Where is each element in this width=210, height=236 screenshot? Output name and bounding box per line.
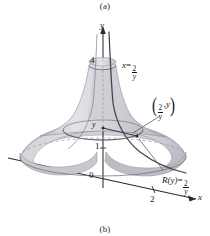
x-axis-label: x — [198, 193, 202, 202]
tick-label-4: 4 — [90, 55, 95, 65]
caption-bottom: (b) — [0, 224, 210, 234]
point-close-paren: ) — [170, 96, 175, 113]
point-fraction: 2y — [158, 104, 164, 120]
curve-equation-numerator: 2 — [132, 65, 138, 72]
origin-label: 0 — [89, 170, 94, 180]
radius-function-equals: = — [178, 175, 183, 185]
variable-marker-y: y — [92, 121, 96, 129]
curve-equation-equals: = — [126, 60, 131, 70]
radius-function-label: R(y)=2y — [162, 176, 189, 196]
point-numerator: 2 — [158, 104, 164, 111]
radius-function-denominator: y — [183, 187, 188, 195]
curve-equation-denominator: y — [132, 72, 137, 80]
tick-label-2: 2 — [150, 194, 155, 204]
radius-function-fraction: 2y — [183, 180, 189, 196]
point-denominator: y — [158, 112, 163, 120]
y-axis-label: y — [100, 21, 104, 30]
point-open-paren: ( — [152, 96, 157, 113]
figure-canvas — [0, 0, 210, 236]
curve-equation-fraction: 2y — [132, 65, 138, 81]
curve-equation-label: x=2y — [122, 61, 138, 81]
tick-label-1: 1 — [95, 141, 100, 151]
radius-function-numerator: 2 — [183, 180, 189, 187]
radius-function-lhs: R(y) — [162, 175, 178, 185]
point-label: (2y,y) — [152, 99, 175, 120]
caption-top: (a) — [0, 1, 210, 11]
